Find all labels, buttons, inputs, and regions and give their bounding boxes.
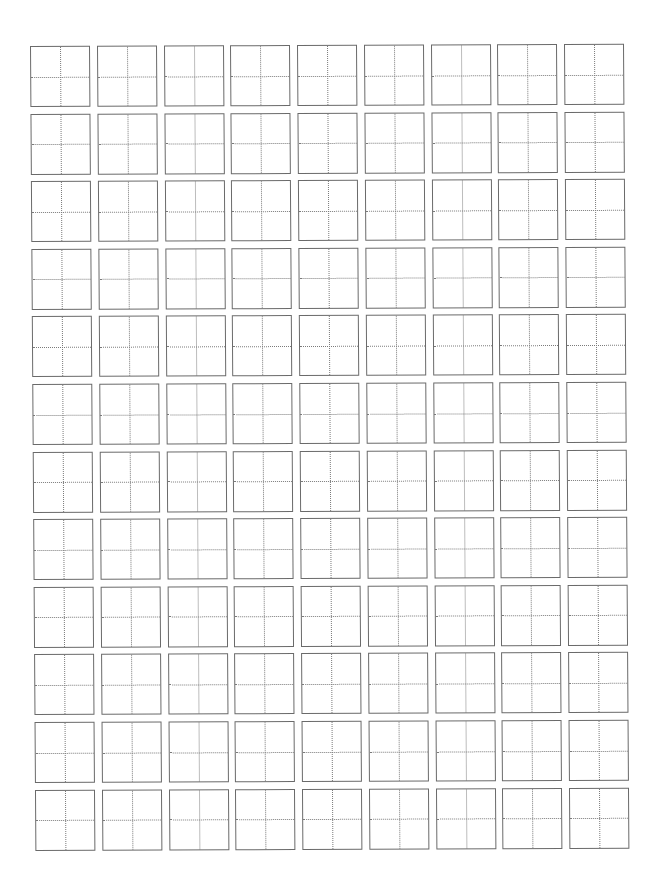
- horizontal-guide-line: [303, 751, 361, 752]
- horizontal-guide-line: [234, 414, 292, 415]
- grid-cell: [368, 653, 428, 714]
- horizontal-guide-line: [33, 279, 91, 280]
- horizontal-guide-line: [167, 481, 225, 482]
- horizontal-guide-line: [369, 751, 427, 752]
- grid-cell: [99, 316, 159, 377]
- grid-cell: [366, 450, 426, 511]
- horizontal-guide-line: [235, 549, 293, 550]
- horizontal-guide-line: [434, 480, 492, 481]
- horizontal-guide-line: [302, 684, 360, 685]
- grid-cell: [567, 517, 627, 578]
- horizontal-guide-line: [568, 480, 626, 481]
- horizontal-guide-line: [500, 345, 558, 346]
- horizontal-guide-line: [233, 278, 291, 279]
- grid-cell: [564, 44, 624, 105]
- horizontal-guide-line: [436, 751, 494, 752]
- grid-cell: [435, 720, 495, 781]
- grid-cell: [231, 113, 291, 174]
- grid-cell: [566, 314, 626, 375]
- grid-cell: [231, 180, 291, 241]
- grid-cell: [431, 179, 491, 240]
- horizontal-guide-line: [502, 548, 560, 549]
- grid-cell: [298, 248, 358, 309]
- grid-cell: [435, 653, 495, 714]
- horizontal-guide-line: [235, 616, 293, 617]
- horizontal-guide-line: [36, 820, 94, 821]
- horizontal-guide-line: [99, 279, 157, 280]
- horizontal-guide-line: [35, 685, 93, 686]
- grid-cell: [500, 450, 560, 511]
- grid-cell: [434, 517, 494, 578]
- horizontal-guide-line: [432, 75, 490, 76]
- horizontal-guide-line: [365, 75, 423, 76]
- horizontal-guide-line: [236, 752, 294, 753]
- horizontal-guide-line: [35, 617, 93, 618]
- grid-cell: [34, 587, 94, 648]
- horizontal-guide-line: [100, 346, 158, 347]
- grid-cell: [501, 652, 561, 713]
- grid-cell: [166, 383, 226, 444]
- horizontal-guide-line: [98, 76, 156, 77]
- horizontal-guide-line: [36, 752, 94, 753]
- grid-cell: [367, 585, 427, 646]
- grid-cell: [97, 113, 157, 174]
- grid-cell: [234, 653, 294, 714]
- horizontal-guide-line: [101, 549, 159, 550]
- grid-cell: [34, 654, 94, 715]
- horizontal-guide-line: [498, 75, 556, 76]
- grid-cell: [364, 45, 424, 106]
- grid-cell: [30, 113, 90, 174]
- grid-cell: [101, 722, 161, 783]
- horizontal-guide-line: [566, 209, 624, 210]
- grid-cell: [299, 315, 359, 376]
- grid-cell: [167, 518, 227, 579]
- horizontal-guide-line: [367, 413, 425, 414]
- horizontal-guide-line: [167, 414, 225, 415]
- horizontal-guide-line: [366, 210, 424, 211]
- horizontal-guide-line: [435, 548, 493, 549]
- grid-cell: [568, 585, 628, 646]
- horizontal-guide-line: [566, 142, 624, 143]
- grid-cell: [432, 247, 492, 308]
- grid-cell: [233, 451, 293, 512]
- grid-cell: [365, 180, 425, 241]
- horizontal-guide-line: [31, 76, 89, 77]
- horizontal-guide-line: [168, 549, 226, 550]
- grid-cell: [435, 788, 495, 849]
- horizontal-guide-line: [168, 617, 226, 618]
- horizontal-guide-line: [369, 616, 427, 617]
- grid-cell: [32, 316, 92, 377]
- grid-cell: [35, 789, 95, 850]
- grid-cell: [368, 721, 428, 782]
- horizontal-guide-line: [570, 750, 628, 751]
- horizontal-guide-line: [165, 76, 223, 77]
- grid-cell: [33, 519, 93, 580]
- grid-cell: [165, 248, 225, 309]
- grid-cell: [168, 654, 228, 715]
- grid-cell: [101, 654, 161, 715]
- grid-cell: [99, 384, 159, 445]
- horizontal-guide-line: [367, 345, 425, 346]
- grid-cell: [499, 247, 559, 308]
- grid-cell: [301, 653, 361, 714]
- horizontal-guide-line: [433, 210, 491, 211]
- grid-cell: [433, 450, 493, 511]
- grid-cell: [232, 248, 292, 309]
- grid-cell: [297, 112, 357, 173]
- horizontal-guide-line: [499, 210, 557, 211]
- grid-cell: [31, 249, 91, 310]
- horizontal-guide-line: [570, 818, 628, 819]
- horizontal-guide-line: [167, 346, 225, 347]
- grid-cell: [369, 788, 429, 849]
- grid-cell: [565, 247, 625, 308]
- horizontal-guide-line: [503, 751, 561, 752]
- horizontal-guide-line: [101, 482, 159, 483]
- grid-cell: [233, 383, 293, 444]
- horizontal-guide-line: [499, 142, 557, 143]
- horizontal-guide-line: [166, 279, 224, 280]
- horizontal-guide-line: [32, 211, 90, 212]
- horizontal-guide-line: [565, 74, 623, 75]
- horizontal-guide-line: [569, 615, 627, 616]
- horizontal-guide-line: [170, 819, 228, 820]
- horizontal-guide-line: [165, 143, 223, 144]
